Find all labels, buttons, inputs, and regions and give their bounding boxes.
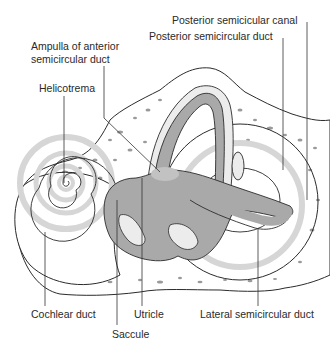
label-posterior-semicircular-canal: Posterior semicicular canal (172, 14, 297, 26)
label-ampulla-line-1: Ampulla of anterior (31, 40, 119, 52)
inner-ear-diagram: Posterior semicicular canal Posterior se… (0, 0, 330, 347)
label-helicotrema: Helicotrema (39, 82, 95, 94)
label-cochlear-duct: Cochlear duct (31, 308, 96, 320)
label-lateral-semicircular-duct: Lateral semicircular duct (200, 308, 314, 320)
label-utricle: Utricle (134, 308, 164, 320)
label-saccule: Saccule (112, 328, 149, 340)
ampulla (151, 167, 179, 181)
label-posterior-semicircular-duct: Posterior semicircular duct (149, 30, 273, 42)
label-ampulla-line-2: semicircular duct (31, 53, 110, 65)
duct-opening (232, 152, 244, 180)
